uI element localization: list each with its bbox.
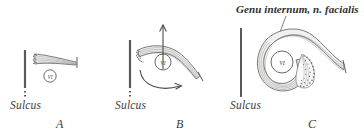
panel-c: VI Genu internum, n. facialis Sulcus C bbox=[228, 0, 364, 133]
nerve-bundle-a bbox=[33, 54, 77, 68]
panel-c-drawing: VI bbox=[228, 0, 364, 133]
nucleus-vi-a: VI bbox=[44, 70, 56, 82]
nucleus-label-c: VI bbox=[279, 60, 286, 66]
migration-arrow-curve-b bbox=[140, 70, 182, 89]
panel-b: VI Sulcus B bbox=[110, 0, 228, 133]
sulcus-caption-b: Sulcus bbox=[115, 100, 146, 112]
nucleus-label-a: VI bbox=[48, 74, 53, 80]
nucleus-vi-c: VI bbox=[271, 51, 293, 73]
anatomical-figure: VI Sulcus A bbox=[0, 0, 364, 133]
sulcus-caption-a: Sulcus bbox=[10, 100, 41, 112]
panel-a-drawing: VI bbox=[0, 0, 110, 133]
panel-letter-a: A bbox=[56, 118, 64, 130]
panel-b-drawing: VI bbox=[110, 0, 228, 133]
panel-letter-c: C bbox=[308, 118, 316, 130]
panel-letter-b: B bbox=[176, 118, 184, 130]
panel-a: VI Sulcus A bbox=[0, 0, 110, 133]
genu-internum-label: Genu internum, n. facialis bbox=[236, 4, 359, 15]
sulcus-caption-c: Sulcus bbox=[230, 100, 261, 112]
